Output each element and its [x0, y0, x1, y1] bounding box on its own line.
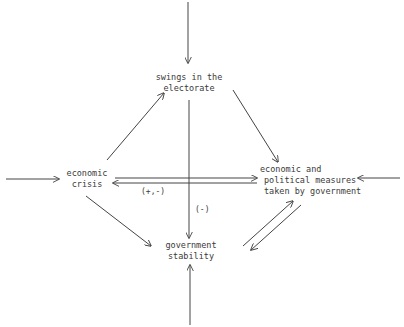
arrow-crisis-to-stability	[86, 196, 151, 246]
node-crisis-line-1: economic	[62, 168, 112, 179]
arrow-stability-to-measures	[243, 201, 293, 246]
node-electorate-line-1: swings in the	[150, 72, 228, 83]
node-government-stability: government stability	[155, 240, 227, 262]
node-economic-political-measures: economic and political measures taken by…	[260, 164, 360, 197]
arrow-crisis-to-electorate	[107, 93, 164, 160]
node-crisis-line-2: crisis	[62, 179, 112, 190]
node-economic-crisis: economic crisis	[62, 168, 112, 190]
arrow-electorate-to-measures	[233, 90, 278, 162]
edge-label-electorate-stability: (-)	[195, 205, 209, 214]
arrow-measures-to-stability	[251, 205, 301, 250]
node-electorate-line-2: electorate	[150, 83, 228, 94]
node-measures-line-1: economic and	[260, 164, 360, 175]
node-swings-in-electorate: swings in the electorate	[150, 72, 228, 94]
node-measures-line-3: taken by government	[260, 186, 360, 197]
node-stability-line-1: government	[155, 240, 227, 251]
node-stability-line-2: stability	[155, 251, 227, 262]
node-measures-line-2: political measures	[260, 175, 360, 186]
edge-label-crisis-measures: (+,-)	[141, 187, 165, 196]
